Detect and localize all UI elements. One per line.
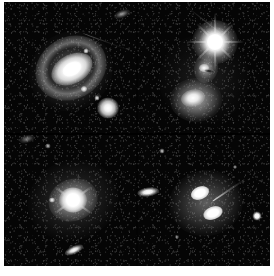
panel-top-right: Saturated stellar source with cross-shap… — [137, 2, 270, 134]
panel-bottom-left: Compact bright elliptical nucleus with f… — [4, 134, 137, 266]
panel-bottom-right: Interacting/merging system: two bright e… — [137, 134, 270, 266]
sky-noise-fine — [4, 2, 137, 134]
sky-noise-fine — [137, 2, 270, 134]
sky-noise-fine — [4, 134, 137, 266]
panel-divider-horizontal — [4, 133, 270, 135]
panel-grid: Bright barred spiral galaxy with incline… — [4, 2, 270, 266]
panel-top-left: Bright barred spiral galaxy with incline… — [4, 2, 137, 134]
sky-noise-fine — [137, 134, 270, 266]
image-mosaic-figure: Bright barred spiral galaxy with incline… — [0, 0, 274, 276]
